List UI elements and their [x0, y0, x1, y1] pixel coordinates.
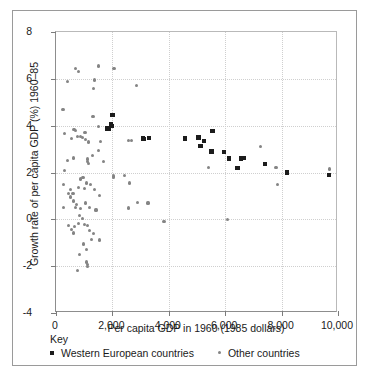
- data-point: [127, 206, 130, 209]
- legend-item-label: Other countries: [228, 348, 300, 359]
- data-point: [88, 229, 91, 232]
- data-point: [90, 238, 93, 241]
- data-point: [198, 144, 202, 148]
- data-point: [69, 188, 72, 191]
- legend-item-other-countries: Other countries: [218, 348, 300, 359]
- data-point: [66, 159, 69, 162]
- data-point: [77, 70, 80, 73]
- y-axis-title: Growth rate of per capita GDP (%) 1960–8…: [28, 19, 40, 309]
- data-point: [328, 167, 331, 170]
- data-point: [67, 192, 70, 195]
- data-point: [85, 181, 88, 184]
- x-tick: [338, 311, 339, 316]
- data-point: [66, 80, 69, 83]
- data-point: [73, 225, 76, 228]
- x-tick: [282, 311, 283, 316]
- data-point: [70, 137, 73, 140]
- dot-marker-icon: [218, 351, 221, 354]
- data-point: [79, 207, 82, 210]
- square-marker-icon: [50, 351, 54, 355]
- data-point: [263, 162, 267, 166]
- data-point: [88, 206, 91, 209]
- data-point: [77, 186, 80, 189]
- data-point: [136, 201, 139, 204]
- x-tick: [225, 311, 226, 316]
- data-point: [327, 173, 331, 177]
- data-point: [276, 183, 279, 186]
- gridline-horizontal: [56, 79, 336, 80]
- y-tick: [51, 79, 56, 80]
- data-point: [93, 188, 96, 191]
- data-point: [89, 183, 92, 186]
- data-point: [91, 154, 94, 157]
- data-point: [128, 181, 131, 184]
- data-point: [130, 139, 133, 142]
- data-point: [86, 265, 89, 268]
- data-point: [98, 238, 101, 241]
- data-point: [86, 224, 89, 227]
- figure-root: -4-202468 02,0004,0006,0008,00010,000 Pe…: [0, 0, 373, 376]
- data-point: [70, 228, 73, 231]
- data-point: [259, 145, 262, 148]
- data-point: [92, 87, 95, 90]
- gridline-horizontal: [56, 266, 336, 267]
- gridline-horizontal: [56, 219, 336, 220]
- data-point: [83, 187, 86, 190]
- data-point: [72, 199, 75, 202]
- y-tick: [51, 32, 56, 33]
- data-point: [147, 136, 151, 140]
- data-point: [97, 125, 100, 128]
- data-point: [98, 194, 101, 197]
- data-point: [107, 127, 111, 131]
- data-point: [71, 192, 74, 195]
- data-point: [84, 201, 87, 204]
- data-point: [146, 201, 149, 204]
- data-point: [77, 222, 80, 225]
- legend-title: Key: [50, 334, 300, 345]
- data-point: [97, 149, 100, 152]
- gridline-vertical: [169, 32, 170, 311]
- data-point: [235, 166, 239, 170]
- legend-item-label: Western European countries: [61, 348, 194, 359]
- data-point: [135, 84, 138, 87]
- data-point: [87, 162, 90, 165]
- data-point: [112, 67, 115, 70]
- data-point: [196, 135, 200, 139]
- data-point: [222, 150, 226, 154]
- data-point: [78, 253, 81, 256]
- data-point: [274, 166, 277, 169]
- gridline-vertical: [282, 32, 283, 311]
- data-point: [94, 208, 97, 211]
- data-point: [74, 129, 77, 132]
- data-point: [110, 113, 114, 117]
- legend: Key Western European countries Other cou…: [50, 334, 300, 358]
- data-point: [72, 231, 75, 234]
- data-point: [162, 220, 165, 223]
- data-point: [142, 137, 146, 141]
- data-point: [74, 206, 77, 209]
- data-point: [207, 166, 210, 169]
- gridline-vertical: [225, 32, 226, 311]
- data-point: [112, 176, 115, 179]
- gridline-horizontal: [56, 173, 336, 174]
- data-point: [72, 156, 75, 159]
- data-point: [91, 115, 94, 118]
- data-point: [82, 242, 85, 245]
- data-point: [69, 195, 72, 198]
- data-point: [209, 149, 213, 153]
- data-point: [97, 64, 100, 67]
- plot-area: [55, 31, 337, 312]
- data-point: [183, 136, 187, 140]
- data-point: [62, 183, 65, 186]
- data-point: [63, 132, 66, 135]
- y-tick: [51, 173, 56, 174]
- data-point: [85, 248, 88, 251]
- x-tick: [112, 311, 113, 316]
- data-point: [61, 108, 64, 111]
- data-point: [202, 139, 206, 143]
- data-point: [285, 170, 289, 174]
- y-tick: [51, 266, 56, 267]
- data-point: [87, 140, 90, 143]
- y-tick: [51, 219, 56, 220]
- data-point: [92, 232, 95, 235]
